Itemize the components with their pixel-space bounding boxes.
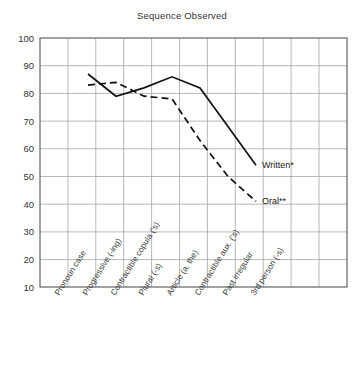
- y-tick-label: 20: [23, 254, 34, 265]
- x-tick-label: Plural (-s): [136, 261, 164, 297]
- y-tick-label: 30: [23, 226, 34, 237]
- x-tick-label: 3rd person (-s): [248, 245, 285, 297]
- chart-container: Sequence Observed: [0, 0, 364, 380]
- y-tick-label: 40: [23, 199, 34, 210]
- y-axis-tick-labels: 100 90 80 70 60 50 40 30 20 10: [18, 33, 34, 293]
- series-line-oral: [88, 82, 256, 201]
- series-line-written: [88, 74, 256, 165]
- y-tick-label: 10: [23, 282, 34, 293]
- chart-plot-svg: 100 90 80 70 60 50 40 30 20 10 Pronoun c…: [0, 0, 364, 380]
- y-tick-label: 100: [18, 33, 34, 44]
- series-label-written: Written*: [262, 160, 294, 170]
- y-tick-label: 80: [23, 88, 34, 99]
- x-tick-label: Contractible copula ('s): [108, 220, 161, 297]
- y-tick-label: 90: [23, 60, 34, 71]
- series-label-oral: Oral**: [262, 196, 287, 206]
- horizontal-gridlines: [40, 66, 347, 260]
- y-tick-label: 60: [23, 143, 34, 154]
- x-axis-tick-labels: Pronoun case Progressive (-ing) Contract…: [52, 220, 285, 297]
- y-tick-label: 50: [23, 171, 34, 182]
- y-tick-label: 70: [23, 116, 34, 127]
